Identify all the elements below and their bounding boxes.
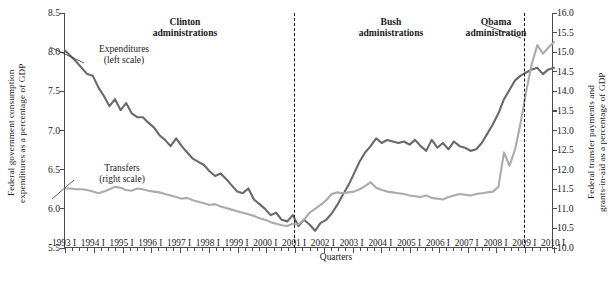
x-tick-label: 2004 I	[368, 238, 392, 248]
x-tick-label: 2003 I	[340, 238, 364, 248]
y-tick-label-left: 8.5	[35, 8, 60, 18]
y-tick-label-right: 12.5	[557, 145, 584, 155]
y-tick-label-right: 11.0	[557, 204, 584, 214]
y-tick-left	[60, 208, 65, 209]
clinton-admin-label: Clinton administrations	[120, 16, 250, 38]
x-tick-label: 2000 I	[253, 238, 277, 248]
y-tick-label-left: 7.5	[35, 86, 60, 96]
y-tick-label-left: 6.5	[35, 165, 60, 175]
x-tick-label: 1997 I	[167, 238, 191, 248]
series-transfers	[65, 42, 554, 226]
y-tick-label-right: 11.5	[557, 184, 584, 194]
bush-admin-label: Bush administrations	[336, 16, 446, 38]
x-tick-label: 2005 I	[397, 238, 421, 248]
y-axis-label-right: Federal transfer payments and grants-in-…	[586, 40, 608, 245]
y-tick-label-right: 14.0	[557, 86, 584, 96]
obama-admin-label: Obama administration	[443, 16, 549, 38]
divider-2001	[294, 13, 295, 248]
x-axis-title: Quarters	[0, 252, 616, 262]
x-tick-label: 2008 I	[483, 238, 507, 248]
y-tick-label-left: 7.0	[35, 126, 60, 136]
x-tick-label: 1994 I	[81, 238, 105, 248]
y-tick-label-right: 10.5	[557, 223, 584, 233]
y-tick-label-right: 15.0	[557, 47, 584, 57]
y-tick-label-right: 14.5	[557, 67, 584, 77]
y-tick-left	[60, 169, 65, 170]
x-tick-label: 2002 I	[311, 238, 335, 248]
y-tick-label-left: 8.0	[35, 47, 60, 57]
x-tick-label: 1998 I	[196, 238, 220, 248]
y-tick-label-right: 12.0	[557, 165, 584, 175]
y-tick-label-right: 13.0	[557, 126, 584, 136]
x-tick-label: 1996 I	[138, 238, 162, 248]
y-tick-left	[60, 130, 65, 131]
transfers-annotation: Transfers (right scale)	[76, 163, 168, 185]
y-tick-left	[60, 52, 65, 53]
x-tick-label: 1995 I	[110, 238, 134, 248]
chart-figure: Federal government consumption expenditu…	[0, 0, 616, 289]
y-tick-label-right: 13.5	[557, 106, 584, 116]
series-expenditures	[65, 51, 554, 231]
x-tick-label: 2006 I	[426, 238, 450, 248]
x-tick-label: 1993 I	[52, 238, 76, 248]
y-tick-label-left: 6.0	[35, 204, 60, 214]
divider-2009	[524, 13, 525, 248]
x-tick-label: 1999 I	[225, 238, 249, 248]
x-tick-label: 2010 I	[541, 238, 565, 248]
y-axis-label-left: Federal government consumption expenditu…	[6, 28, 28, 238]
expenditures-annotation: Expenditures (left scale)	[78, 44, 170, 66]
y-tick-label-right: 15.5	[557, 28, 584, 38]
y-tick-label-right: 16.0	[557, 8, 584, 18]
y-tick-left	[60, 91, 65, 92]
x-tick-label: 2007 I	[455, 238, 479, 248]
y-tick-left	[60, 13, 65, 14]
